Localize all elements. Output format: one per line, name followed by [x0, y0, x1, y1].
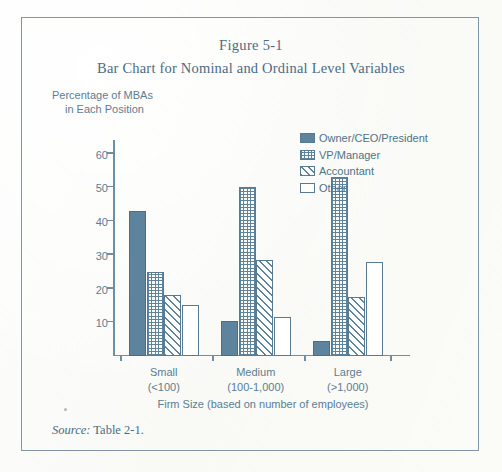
legend-swatch-open	[300, 183, 315, 193]
bar-solid-group2	[221, 321, 238, 356]
legend-label: Accountant	[319, 165, 374, 177]
x-group-range: (>1,000)	[293, 380, 403, 395]
legend-item-1: Owner/CEO/President	[300, 130, 428, 147]
y-tick	[107, 152, 114, 154]
x-axis-title: Firm Size (based on number of employees)	[113, 398, 413, 410]
legend-item-4: Other	[300, 180, 428, 197]
x-tick	[390, 355, 392, 361]
legend-swatch-solid	[300, 133, 315, 143]
bar-diagonal-hatch-group3	[348, 297, 365, 356]
x-group-name: Large	[293, 365, 403, 380]
y-tick	[107, 220, 114, 222]
legend-label: Other	[319, 182, 347, 194]
figure-title: Bar Chart for Nominal and Ordinal Level …	[0, 60, 502, 77]
legend-item-3: Accountant	[300, 163, 428, 180]
bar-diagonal-hatch-group2	[256, 260, 273, 356]
y-axis-label-line1: Percentage of MBAs	[52, 89, 153, 101]
source-note: Source: Table 2-1.	[52, 423, 144, 438]
y-tick	[107, 321, 114, 323]
y-tick-label: 50	[78, 182, 108, 194]
bar-open-group3	[366, 262, 383, 356]
bar-open-group2	[274, 317, 291, 356]
bar-diagonal-hatch-group1	[164, 295, 181, 356]
bar-crosshatch-grid-group2	[239, 187, 256, 356]
y-tick-label: 60	[78, 149, 108, 161]
legend-label: VP/Manager	[319, 149, 380, 161]
y-tick-label: 30	[78, 250, 108, 262]
bar-crosshatch-grid-group1	[147, 272, 164, 356]
bar-solid-group1	[129, 211, 146, 356]
figure-number: Figure 5-1	[0, 37, 502, 54]
x-tick	[212, 355, 214, 361]
bar-open-group1	[182, 305, 199, 356]
bar-crosshatch-grid-group3	[331, 177, 348, 356]
source-prefix: Source:	[52, 423, 90, 437]
legend-swatch-crosshatch-grid	[300, 150, 315, 160]
y-tick	[107, 287, 114, 289]
legend-item-2: VP/Manager	[300, 147, 428, 164]
y-axis-line	[113, 140, 115, 356]
x-group-label-large: Large(>1,000)	[293, 365, 403, 394]
y-axis-label-line2: in Each Position	[52, 102, 153, 116]
y-tick-label: 40	[78, 216, 108, 228]
x-tick	[120, 355, 122, 361]
y-tick-label: 20	[78, 284, 108, 296]
y-tick	[107, 253, 114, 255]
y-axis-label: Percentage of MBAs in Each Position	[52, 88, 153, 116]
legend-swatch-diagonal-hatch	[300, 166, 315, 176]
y-tick	[107, 186, 114, 188]
y-tick-label: 10	[78, 317, 108, 329]
figure-page: Figure 5-1 Bar Chart for Nominal and Ord…	[0, 0, 502, 472]
legend: Owner/CEO/PresidentVP/ManagerAccountantO…	[300, 130, 428, 196]
bar-solid-group3	[313, 341, 330, 356]
source-text: Table 2-1.	[93, 423, 144, 437]
legend-label: Owner/CEO/President	[319, 132, 428, 144]
x-tick	[304, 355, 306, 361]
